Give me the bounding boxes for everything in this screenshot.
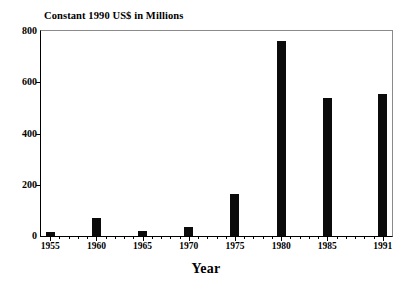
x-tick-label: 1991	[373, 242, 392, 252]
chart-title: Constant 1990 US$ in Millions	[44, 11, 183, 22]
x-minor-tick-mark	[226, 236, 227, 239]
x-minor-tick-mark	[180, 236, 181, 239]
bar-1970	[184, 227, 193, 236]
y-tick-label: 600	[22, 77, 37, 87]
y-tick-label: 200	[22, 180, 37, 190]
y-tick-label: 0	[32, 231, 37, 241]
x-minor-tick-mark	[106, 236, 107, 239]
x-minor-tick-mark	[133, 236, 134, 239]
x-minor-tick-mark	[263, 236, 264, 239]
x-tick-label: 1970	[179, 242, 198, 252]
x-minor-tick-mark	[337, 236, 338, 239]
bar-1975	[230, 194, 239, 236]
x-tick-label: 1975	[225, 242, 244, 252]
x-tick-label: 1965	[133, 242, 152, 252]
x-minor-tick-mark	[374, 236, 375, 239]
x-tick-label: 1980	[272, 242, 291, 252]
x-minor-tick-mark	[217, 236, 218, 239]
x-minor-tick-mark	[290, 236, 291, 239]
x-minor-tick-mark	[253, 236, 254, 239]
chart-figure: Constant 1990 US$ in Millions 0200400600…	[0, 0, 412, 297]
x-minor-tick-mark	[59, 236, 60, 239]
y-tick-label: 800	[22, 26, 37, 36]
x-minor-tick-mark	[161, 236, 162, 239]
x-tick-label: 1985	[318, 242, 337, 252]
x-minor-tick-mark	[87, 236, 88, 239]
bar-1980	[277, 41, 286, 236]
x-minor-tick-mark	[355, 236, 356, 239]
x-minor-tick-mark	[152, 236, 153, 239]
x-minor-tick-mark	[115, 236, 116, 239]
x-axis-title: Year	[0, 262, 412, 276]
x-tick-label: 1955	[41, 242, 60, 252]
x-minor-tick-mark	[124, 236, 125, 239]
bar-1991	[378, 94, 387, 236]
bar-1960	[92, 218, 101, 236]
y-tick-label: 400	[22, 129, 37, 139]
x-minor-tick-mark	[309, 236, 310, 239]
x-minor-tick-mark	[198, 236, 199, 239]
x-minor-tick-mark	[69, 236, 70, 239]
x-minor-tick-mark	[300, 236, 301, 239]
x-tick-label: 1960	[87, 242, 106, 252]
x-minor-tick-mark	[244, 236, 245, 239]
x-minor-tick-mark	[78, 236, 79, 239]
x-minor-tick-mark	[207, 236, 208, 239]
x-minor-tick-mark	[318, 236, 319, 239]
x-minor-tick-mark	[364, 236, 365, 239]
bar-1985	[323, 98, 332, 236]
x-minor-tick-mark	[346, 236, 347, 239]
plot-area: 0200400600800 19551960196519701975198019…	[40, 30, 393, 237]
x-minor-tick-mark	[170, 236, 171, 239]
x-minor-tick-mark	[272, 236, 273, 239]
